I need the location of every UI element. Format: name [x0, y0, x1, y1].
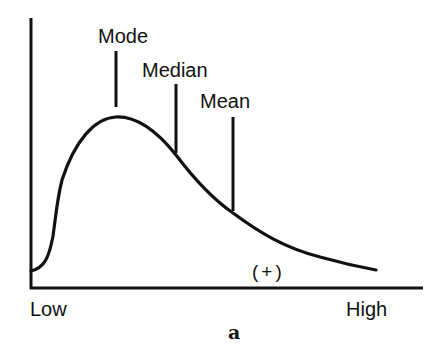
x-axis-high-label: High [346, 298, 387, 320]
figure-caption: a [228, 321, 240, 343]
skewed-distribution-diagram: Mode Median Mean (+) Low High a [0, 0, 442, 357]
positive-skew-sign: (+) [252, 261, 285, 282]
median-label: Median [142, 59, 208, 81]
mode-label: Mode [98, 25, 148, 47]
mean-label: Mean [200, 90, 250, 112]
x-axis-low-label: Low [30, 298, 67, 320]
distribution-curve [31, 117, 376, 271]
